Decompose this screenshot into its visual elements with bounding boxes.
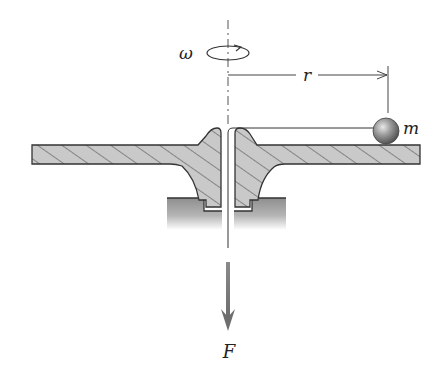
mass-ball — [373, 118, 399, 144]
force-label: F — [222, 341, 237, 362]
bearing-base — [167, 198, 286, 230]
radius-label: r — [303, 65, 312, 85]
rotating-table-diagram: ω r m F — [0, 0, 443, 372]
table-left-section — [32, 128, 221, 207]
omega-label: ω — [179, 43, 193, 63]
force-arrow-icon — [221, 262, 235, 331]
mass-label: m — [403, 118, 419, 138]
